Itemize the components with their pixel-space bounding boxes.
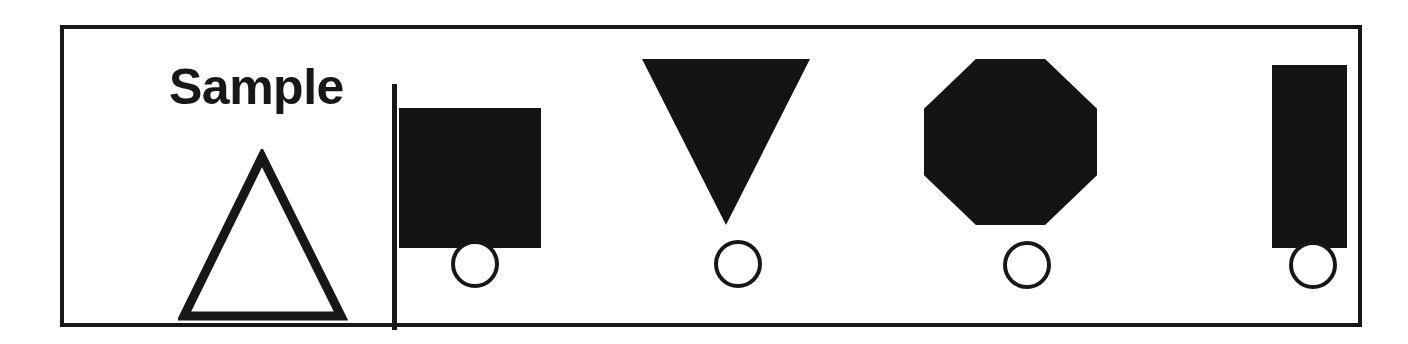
- filled-octagon-icon: [924, 59, 1097, 225]
- question-panel: Sample: [60, 25, 1362, 327]
- option-1[interactable]: [370, 59, 570, 329]
- worksheet-page: Sample: [0, 0, 1408, 344]
- filled-vertical-rectangle-icon: [1272, 65, 1347, 248]
- option-2-shape-slot: [642, 59, 842, 259]
- option-2[interactable]: [642, 59, 842, 329]
- option-2-bubble[interactable]: [714, 240, 762, 288]
- sample-label: Sample: [169, 62, 344, 112]
- option-4-bubble[interactable]: [1289, 241, 1337, 289]
- sample-triangle-outline-icon: [178, 149, 348, 324]
- option-3-bubble[interactable]: [1003, 241, 1051, 289]
- option-3-shape-slot: [924, 59, 1124, 259]
- option-1-bubble[interactable]: [451, 240, 499, 288]
- option-4[interactable]: [1210, 59, 1408, 329]
- option-3[interactable]: [924, 59, 1124, 329]
- option-1-shape-slot: [370, 59, 570, 259]
- filled-inverted-triangle-icon: [642, 59, 810, 225]
- filled-square-icon: [399, 108, 541, 248]
- option-4-shape-slot: [1210, 59, 1408, 259]
